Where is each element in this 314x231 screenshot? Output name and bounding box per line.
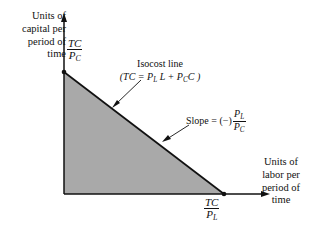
y-intercept-point [62,70,67,75]
x-intercept-label: TC PL [204,197,219,223]
slope-annotation-text: Slope = (−) [186,116,232,127]
x-intercept-point [222,192,227,197]
isocost-annotation-equation: (TC = PL L + PCC ) [104,70,216,85]
slope-fraction: PL PC [233,109,246,135]
x-intercept-fraction: TC PL [204,197,219,223]
slope-leader-arrowhead [162,135,171,142]
figure-canvas: Units of capital per period of time Unit… [0,0,314,231]
isocost-annotation: Isocost line (TC = PL L + PCC ) [104,57,216,85]
x-intercept-denominator: PL [204,209,219,222]
y-axis-label: Units of capital per period of time [8,10,66,61]
y-intercept-fraction: TC PC [67,38,82,64]
isocost-annotation-title: Isocost line [104,57,216,70]
x-axis-label: Units of labor per period of time [252,156,310,207]
slope-annotation: Slope = (−) PL PC [186,109,246,135]
slope-numerator: PL [233,109,246,122]
slope-denominator: PC [233,122,246,134]
y-intercept-denominator: PC [67,50,82,63]
y-intercept-label: TC PC [67,38,82,64]
